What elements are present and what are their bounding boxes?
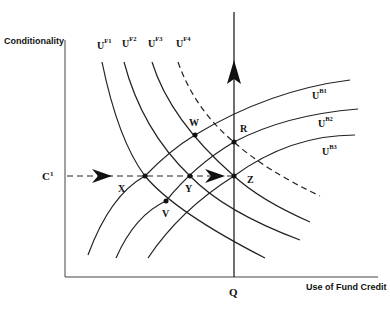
point-x xyxy=(143,174,148,179)
curve-uf1 xyxy=(102,62,265,258)
indifference-curve-diagram: Conditionality Use of Fund Credit Q C1 U… xyxy=(0,0,390,311)
point-y xyxy=(188,174,193,179)
uf2-label: UF2 xyxy=(122,35,136,49)
z-point-label: Z xyxy=(247,174,254,185)
curve-uf2 xyxy=(124,62,300,240)
w-point-label: W xyxy=(189,117,199,128)
y-point-label: Y xyxy=(185,183,193,194)
c1-label: C1 xyxy=(42,170,54,182)
ub1-label: UB1 xyxy=(312,87,327,101)
right-arrow-icon xyxy=(92,169,112,183)
ub3-label: UB3 xyxy=(322,143,338,157)
v-point-label: V xyxy=(162,208,170,219)
q-label: Q xyxy=(229,286,238,298)
uf4-label: UF4 xyxy=(176,35,191,49)
ub2-label: UB2 xyxy=(318,115,333,129)
curve-ub1 xyxy=(88,80,350,255)
uf3-label: UF3 xyxy=(148,35,163,49)
r-point-label: R xyxy=(240,123,248,134)
point-w xyxy=(193,133,198,138)
point-z xyxy=(232,174,237,179)
y-axis-label: Conditionality xyxy=(4,36,64,46)
x-point-label: X xyxy=(118,183,126,194)
point-r xyxy=(232,140,237,145)
x-axis-label: Use of Fund Credit xyxy=(306,282,387,292)
curve-uf3 xyxy=(152,62,310,222)
point-v xyxy=(164,199,169,204)
uf1-label: UF1 xyxy=(97,37,111,51)
